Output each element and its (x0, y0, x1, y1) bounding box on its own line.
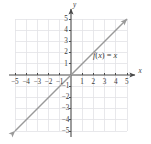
y-tick-label: −3 (62, 105, 70, 112)
coordinate-plane (0, 0, 151, 144)
y-tick-label: 2 (64, 49, 68, 56)
y-tick-label: −1 (62, 83, 70, 90)
x-tick-label: 1 (80, 79, 84, 86)
x-tick-label: 5 (125, 79, 129, 86)
x-tick-label: 2 (92, 79, 96, 86)
y-tick-label: −4 (62, 117, 70, 124)
graph-figure: −5 −4 −3 −2 −1 1 2 3 4 5 5 4 3 2 1 −1 −2… (0, 0, 151, 144)
x-tick-label: −3 (33, 79, 41, 86)
y-tick-label: 4 (64, 27, 68, 34)
y-tick-label: 1 (64, 61, 68, 68)
x-tick-label: −4 (22, 79, 30, 86)
function-annotation: f(x) = x (93, 52, 117, 60)
x-tick-label: 3 (103, 79, 107, 86)
x-tick-label: −5 (11, 79, 19, 86)
y-tick-label: 3 (64, 38, 68, 45)
x-tick-label: 4 (114, 79, 118, 86)
y-tick-label: −2 (62, 94, 70, 101)
x-axis-label: x (139, 68, 142, 75)
y-axis-label: y (73, 2, 76, 9)
y-tick-label: −5 (62, 128, 70, 135)
y-tick-label: 5 (64, 16, 68, 23)
x-tick-label: −2 (45, 79, 53, 86)
